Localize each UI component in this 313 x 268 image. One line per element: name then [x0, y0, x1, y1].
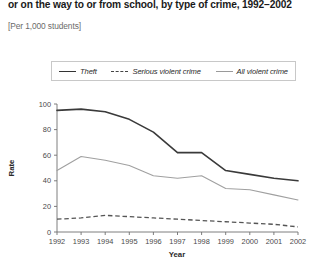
y-tick-label: 60: [43, 151, 51, 160]
legend-item-all-violent-crime: All violent crime: [216, 67, 288, 76]
x-tick-label: 1994: [97, 237, 113, 246]
legend-swatch-dashed-line-icon: [111, 71, 128, 72]
x-tick-label: 1995: [121, 237, 137, 246]
legend-label-serious-violent-crime: Serious violent crime: [132, 67, 200, 76]
legend-item-serious-violent-crime: Serious violent crime: [111, 67, 200, 76]
y-tick-label: 100: [39, 100, 51, 109]
chart-subtitle: [Per 1,000 students]: [8, 21, 81, 31]
y-axis-title: Rate: [7, 159, 16, 177]
line-theft: [57, 109, 298, 181]
x-tick-label: 1999: [217, 237, 233, 246]
legend-label-all-violent-crime: All violent crime: [237, 67, 288, 76]
data-series-group: [57, 109, 298, 227]
x-tick-label: 1997: [169, 237, 185, 246]
x-tick-group: 1992199319941995199619971998199920002001…: [49, 232, 306, 246]
x-tick-label: 1996: [145, 237, 161, 246]
line-serious-violent-crime: [57, 215, 298, 227]
y-axis: 020406080100 Rate: [7, 100, 57, 237]
x-tick-label: 1993: [73, 237, 89, 246]
x-tick-label: 1992: [49, 237, 65, 246]
chart-legend: Theft Serious violent crime All violent …: [51, 61, 296, 81]
chart-figure: or on the way to or from school, by type…: [0, 0, 313, 268]
x-axis: 1992199319941995199619971998199920002001…: [49, 232, 306, 259]
legend-swatch-solid-line-icon: [59, 71, 76, 72]
x-tick-label: 2001: [266, 237, 282, 246]
x-tick-label: 2000: [242, 237, 258, 246]
line-all-violent-crime: [57, 156, 298, 200]
x-axis-title: Year: [169, 250, 185, 259]
legend-swatch-light-line-icon: [216, 71, 233, 72]
y-tick-label: 0: [47, 228, 51, 237]
legend-label-theft: Theft: [80, 67, 97, 76]
y-tick-label: 40: [43, 176, 51, 185]
x-tick-label: 2002: [290, 237, 306, 246]
y-tick-label: 20: [43, 202, 51, 211]
plot-area: 020406080100 Rate 1992199319941995199619…: [0, 0, 313, 268]
chart-title: or on the way to or from school, by type…: [8, 0, 308, 11]
y-tick-group: 020406080100: [39, 100, 57, 237]
legend-item-theft: Theft: [59, 67, 97, 76]
y-tick-label: 80: [43, 125, 51, 134]
x-tick-label: 1998: [193, 237, 209, 246]
